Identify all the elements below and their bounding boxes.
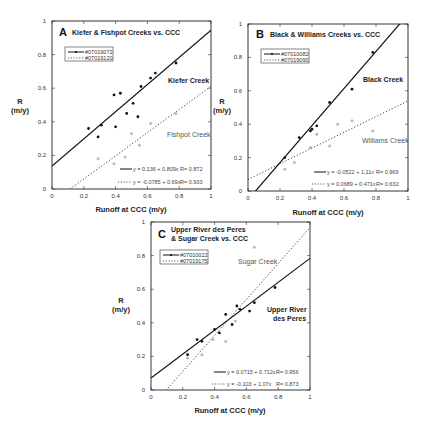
y-tick-label: 0.4 — [137, 320, 146, 326]
data-point — [132, 102, 135, 105]
fit-equation-1: y = 0.0715 + 0.712x — [227, 369, 276, 375]
panel-c-chart: 00.20.40.60.8100.20.40.60.81 R (m/y) Run… — [112, 219, 312, 415]
y-tick-label: 1 — [142, 219, 146, 225]
y-tick-label: 0.6 — [38, 85, 47, 91]
x-tick-label: 0.8 — [274, 394, 283, 400]
series-label-2: Williams Creek — [362, 137, 409, 144]
x-tick-label: 0.4 — [308, 195, 317, 201]
fit-r-2: R= 0.632 — [376, 181, 398, 187]
data-point — [274, 286, 277, 289]
x-tick-label: 1 — [406, 195, 410, 201]
data-point — [87, 127, 90, 130]
x-tick-label: 0.8 — [372, 195, 381, 201]
series-label-1-line-1: Upper River — [267, 306, 307, 314]
y-tick-label: 0.6 — [137, 286, 146, 292]
x-tick-label: 0.4 — [111, 193, 120, 199]
data-point — [351, 88, 354, 91]
data-point — [235, 305, 238, 308]
y-tick-label: 0.2 — [38, 152, 47, 158]
fit-equation-1: y = 0.136 + 0.809x — [133, 166, 179, 172]
data-point — [149, 77, 152, 80]
data-point — [140, 85, 143, 88]
y-axis-label-units: (m/y) — [213, 106, 231, 115]
data-point — [293, 161, 296, 164]
data-point — [97, 157, 100, 160]
data-point — [224, 313, 227, 316]
data-point — [253, 246, 256, 249]
legend-entry-2: #07019175 — [180, 258, 208, 264]
x-axis-label: Runoff at CCC (m/y) — [194, 406, 266, 415]
y-tick-label: 0.8 — [38, 52, 47, 58]
data-point — [130, 132, 133, 135]
data-point — [218, 331, 221, 334]
data-point — [114, 125, 117, 128]
x-tick-label: 0.2 — [80, 193, 89, 199]
series-label-1: Kiefer Creek — [168, 77, 209, 84]
y-tick-label: 0 — [43, 186, 47, 192]
y-tick-label: 0.4 — [234, 121, 243, 127]
x-tick-label: 0 — [149, 394, 153, 400]
x-tick-label: 0.2 — [179, 394, 188, 400]
panel-letter: A — [59, 26, 67, 38]
y-tick-label: 0.4 — [38, 119, 47, 125]
y-tick-label: 0.2 — [137, 353, 146, 359]
data-point — [186, 357, 189, 360]
x-tick-label: 0.6 — [143, 193, 152, 199]
y-tick-label: 0 — [239, 188, 243, 194]
plot-area: 00.20.40.60.8100.20.40.60.81 — [38, 18, 214, 202]
x-tick-label: 0.6 — [242, 394, 251, 400]
legend-entry-2: #07019120 — [85, 55, 113, 61]
x-tick-label: 0 — [246, 195, 250, 201]
plot-frame — [52, 21, 211, 189]
data-point — [212, 338, 215, 341]
x-tick-label: 1 — [308, 394, 312, 400]
fit-r-1: R= 0.872 — [180, 166, 202, 172]
data-point — [311, 128, 314, 131]
fit-r-2: R= 0.933 — [180, 179, 202, 185]
x-tick-label: 0.2 — [276, 195, 285, 201]
panel-a-chart: 00.20.40.60.8100.20.40.60.81 R (m/y) Run… — [11, 18, 213, 214]
series-label-2: Sugar Creek — [238, 258, 278, 266]
fit-r-1: R= 0.956 — [276, 369, 298, 375]
x-axis-label: Runoff at CCC (m/y) — [95, 205, 167, 214]
data-point — [336, 123, 339, 126]
y-tick-label: 1 — [239, 21, 243, 27]
panel-b-chart: 00.20.40.60.8100.20.40.60.81 R (m/y) Run… — [213, 14, 410, 217]
x-axis-label: Runoff at CCC (m/y) — [292, 208, 364, 217]
y-axis-label: R — [118, 296, 124, 305]
data-point — [175, 112, 178, 115]
data-point — [113, 162, 116, 165]
data-point — [328, 144, 331, 147]
data-point — [175, 62, 178, 65]
y-tick-label: 0.6 — [234, 88, 243, 94]
series-label-1-line-2: des Peres — [273, 315, 306, 322]
panel-letter: B — [256, 28, 264, 40]
x-tick-label: 1 — [209, 193, 213, 199]
y-tick-label: 0.2 — [234, 155, 243, 161]
plot-area: 00.20.40.60.8100.20.40.60.81 — [137, 219, 313, 407]
figure: 00.20.40.60.8100.20.40.60.81 R (m/y) Run… — [0, 0, 427, 435]
data-point — [97, 136, 100, 139]
y-tick-label: 1 — [43, 18, 47, 24]
data-point — [371, 129, 374, 132]
series-label-1: Black Creek — [363, 76, 403, 83]
fit-equation-1: y = -0.0522 + 1.11x — [327, 169, 374, 175]
data-point — [351, 119, 354, 122]
data-point — [315, 133, 318, 136]
data-point — [149, 122, 152, 125]
legend-entry-2: #07019090 — [281, 57, 309, 63]
data-point — [125, 112, 128, 115]
fit-r-2: R= 0.873 — [276, 381, 298, 387]
data-point — [200, 353, 203, 356]
series-label-2: Fishpot Creek — [167, 131, 211, 139]
data-point — [224, 340, 227, 343]
data-point — [113, 94, 116, 97]
y-tick-label: 0.8 — [137, 253, 146, 259]
panel-title-line-2: & Sugar Creek vs. CCC — [171, 235, 248, 243]
y-tick-label: 0 — [142, 387, 146, 393]
data-point — [196, 338, 199, 341]
panel-title: Kiefer & Fishpot Creeks vs. CCC — [72, 29, 180, 37]
data-point — [283, 168, 286, 171]
x-tick-label: 0.4 — [210, 394, 219, 400]
fit-r-1: R= 0.969 — [376, 169, 398, 175]
